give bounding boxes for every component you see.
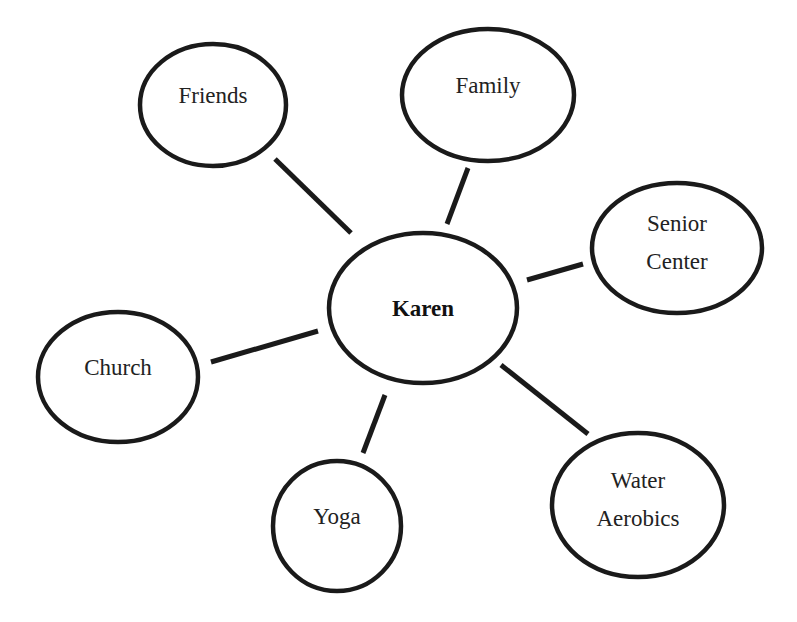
senior-center-label: Center xyxy=(646,249,708,274)
water-aerobics-label: Water xyxy=(611,468,666,493)
yoga-label: Yoga xyxy=(313,504,361,529)
node-family: Family xyxy=(402,29,574,161)
edge-senior-center-to-karen xyxy=(527,264,583,280)
node-church: Church xyxy=(38,312,198,442)
church-label: Church xyxy=(84,355,152,380)
water-aerobics-ellipse xyxy=(552,433,724,577)
senior-center-ellipse xyxy=(592,183,762,313)
node-yoga: Yoga xyxy=(273,461,401,591)
edge-family-to-karen xyxy=(447,168,468,224)
center-node-karen: Karen xyxy=(329,233,517,383)
edge-friends-to-karen xyxy=(275,159,351,233)
center-label: Karen xyxy=(392,296,454,321)
senior-center-label: Senior xyxy=(647,211,707,236)
node-friends: Friends xyxy=(140,44,286,166)
edge-yoga-to-karen xyxy=(363,395,385,453)
node-senior-center: SeniorCenter xyxy=(592,183,762,313)
concept-map: FriendsFamilySeniorCenterChurchYogaWater… xyxy=(0,0,797,622)
water-aerobics-label: Aerobics xyxy=(596,506,679,531)
edge-water-aerobics-to-karen xyxy=(501,365,588,434)
edge-church-to-karen xyxy=(211,331,318,362)
node-water-aerobics: WaterAerobics xyxy=(552,433,724,577)
family-label: Family xyxy=(455,73,521,98)
friends-label: Friends xyxy=(179,83,248,108)
